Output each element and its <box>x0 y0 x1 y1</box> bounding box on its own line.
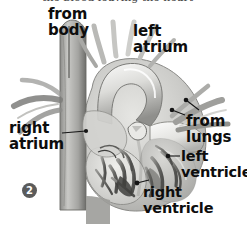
label-left-ventricle-line2: ventricle <box>181 164 247 180</box>
step-number-marker-text: 2 <box>26 185 33 196</box>
label-right-ventricle-line1: right <box>143 184 213 200</box>
label-from-lungs-line2: lungs <box>186 129 231 145</box>
label-right-atrium-line1: right <box>9 120 64 136</box>
label-from-body: from body <box>48 6 89 38</box>
heart-anatomy-figure: the blood leaving the heart <box>0 0 247 227</box>
label-from-body-line1: from <box>48 6 89 22</box>
vena-cava-vessel <box>60 20 86 210</box>
label-left-ventricle-line1: left <box>181 148 247 164</box>
label-right-atrium: right atrium <box>9 120 64 152</box>
label-left-atrium-line2: atrium <box>133 39 188 55</box>
label-right-atrium-line2: atrium <box>9 136 64 152</box>
label-left-atrium-line1: left <box>133 23 188 39</box>
label-left-atrium: left atrium <box>133 23 188 55</box>
descending-vessel <box>86 196 110 224</box>
label-from-lungs-line1: from <box>186 113 231 129</box>
label-left-ventricle: left ventricle <box>181 148 247 180</box>
step-number-marker: 2 <box>22 183 37 198</box>
label-from-lungs: from lungs <box>186 113 231 145</box>
label-from-body-line2: body <box>48 22 89 38</box>
label-right-ventricle-line2: ventricle <box>143 200 213 216</box>
label-right-ventricle: right ventricle <box>143 184 213 216</box>
